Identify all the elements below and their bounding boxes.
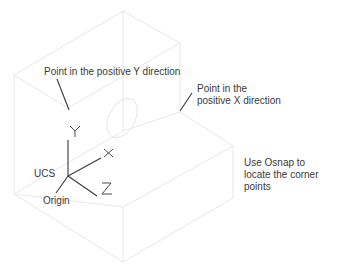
block-top-front-edge <box>14 75 68 108</box>
positive-y-label: Point in the positive Y direction <box>44 66 180 78</box>
origin-leader <box>56 176 68 193</box>
block-edges <box>14 11 233 262</box>
step-top-back-edge <box>123 112 180 131</box>
z-axis <box>68 176 97 196</box>
ucs-label: UCS <box>34 168 55 180</box>
y-axis-glyph <box>70 126 80 131</box>
hole-ellipse <box>101 93 144 142</box>
osnap-label: Use Osnap to locate the corner points <box>244 157 319 193</box>
positive-x-leader <box>180 93 192 111</box>
block-diagram <box>0 0 340 279</box>
ucs-icon <box>68 126 113 196</box>
block-bottom-right-edge <box>123 198 233 262</box>
x-axis <box>68 158 101 176</box>
z-axis-glyph <box>102 183 112 194</box>
step-top-front-edge <box>123 146 233 207</box>
origin-label: Origin <box>43 195 70 207</box>
step-top-right-edge <box>180 112 233 146</box>
positive-x-label: Point in the positive X direction <box>197 83 281 107</box>
